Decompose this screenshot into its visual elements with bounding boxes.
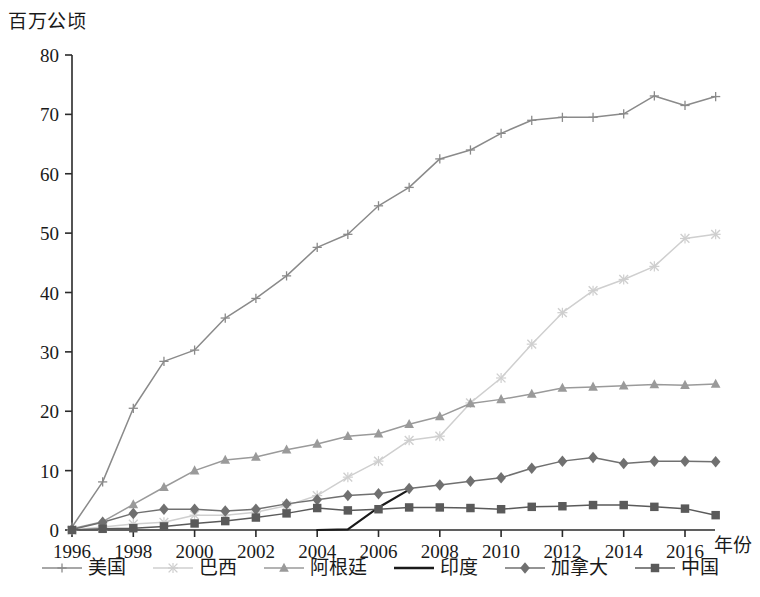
triangle-marker [263,560,305,576]
y-tick-label: 60 [40,164,59,185]
y-tick-label: 0 [50,520,60,541]
legend-label: 中国 [681,558,719,577]
legend-item-3[interactable]: 印度 [393,558,478,577]
series-lines [67,91,721,535]
legend-label: 美国 [88,558,126,577]
y-tick-label: 40 [40,283,59,304]
plus-marker [41,560,83,576]
legend-item-0[interactable]: 美国 [41,558,126,577]
legend-label: 印度 [440,558,478,577]
y-tick-label: 80 [40,45,59,66]
y-axis: 01020304050607080 [40,45,72,541]
square-marker [634,560,676,576]
line-marker [393,560,435,576]
legend-item-1[interactable]: 巴西 [152,558,237,577]
chart-legend: 美国巴西阿根廷印度加拿大中国 [0,558,760,577]
legend-item-2[interactable]: 阿根廷 [263,558,367,577]
y-tick-label: 20 [40,401,59,422]
y-tick-label: 50 [40,223,59,244]
plot-area: 01020304050607080 1996199820002002200420… [0,0,760,597]
y-tick-label: 70 [40,104,59,125]
legend-item-4[interactable]: 加拿大 [504,558,608,577]
chart-container: 百万公顷 年份 01020304050607080 19961998200020… [0,0,760,597]
legend-label: 加拿大 [551,558,608,577]
y-tick-label: 10 [40,461,59,482]
legend-label: 巴西 [199,558,237,577]
legend-item-5[interactable]: 中国 [634,558,719,577]
y-tick-label: 30 [40,342,59,363]
legend-label: 阿根廷 [310,558,367,577]
asterisk-marker [152,560,194,576]
diamond-marker [504,560,546,576]
